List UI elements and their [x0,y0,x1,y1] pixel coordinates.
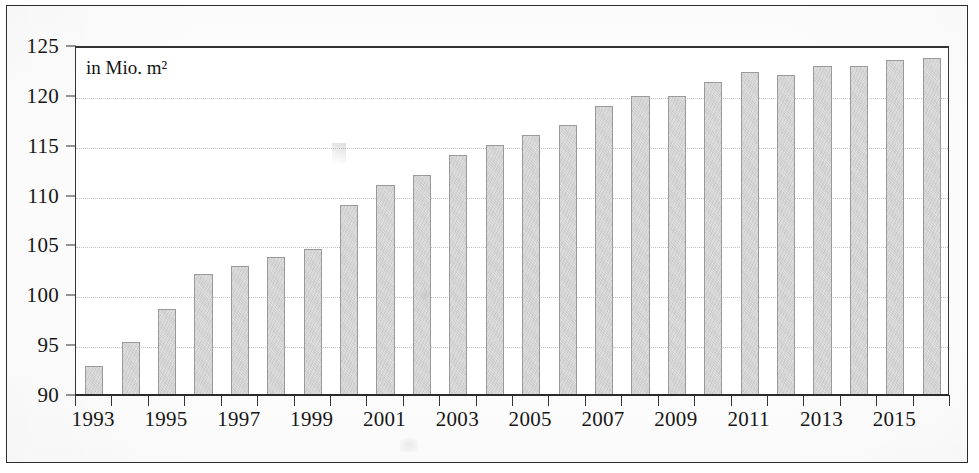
bar [850,66,868,394]
x-tick-mark [439,395,440,406]
x-tick-label: 2011 [727,409,769,430]
x-tick-label: 1993 [72,409,115,430]
bar [704,82,722,394]
bar [522,135,540,394]
bar [886,60,904,394]
bar [413,175,431,394]
x-tick-mark [803,395,804,406]
y-tick-label: 90 [37,385,59,406]
bar [631,96,649,394]
bar [158,309,176,394]
bar [486,145,504,394]
scan-smudge-icon [400,438,418,452]
x-tick-mark [221,395,222,406]
bar [122,342,140,394]
x-tick-mark [731,395,732,406]
x-tick-label: 1997 [217,409,260,430]
y-tick-label: 120 [27,85,59,106]
bar [668,96,686,394]
bar [449,155,467,394]
bar [231,266,249,394]
plot-frame [75,46,949,395]
x-tick-mark [366,395,367,406]
x-tick-mark [184,395,185,406]
x-tick-mark [876,395,877,406]
x-tick-mark [767,395,768,406]
x-tick-label: 2013 [800,409,843,430]
y-tick-label: 115 [27,135,59,156]
y-axis: 9095100105110115120125 [0,0,75,473]
x-tick-label: 2003 [436,409,479,430]
x-tick-mark [949,395,950,406]
bar [85,366,103,394]
bar-chart: 9095100105110115120125 in Mio. m² 199319… [0,0,979,473]
bar [595,106,613,394]
x-tick-mark [111,395,112,406]
bar [304,249,322,394]
x-tick-mark [476,395,477,406]
x-tick-mark [403,395,404,406]
x-tick-label: 2001 [363,409,406,430]
bar [340,205,358,394]
x-tick-mark [512,395,513,406]
x-tick-mark [75,395,76,406]
y-tick-label: 95 [37,335,59,356]
y-tick-label: 105 [27,235,59,256]
x-tick-label: 2009 [654,409,697,430]
x-tick-label: 2005 [509,409,552,430]
x-tick-label: 2015 [873,409,916,430]
x-tick-mark [621,395,622,406]
bar [741,72,759,394]
x-tick-mark [257,395,258,406]
bar [813,66,831,394]
x-tick-mark [148,395,149,406]
x-tick-mark [294,395,295,406]
x-tick-label: 2007 [581,409,624,430]
y-tick-label: 110 [27,185,59,206]
x-tick-mark [840,395,841,406]
unit-annotation: in Mio. m² [86,58,167,77]
bar [559,125,577,394]
bar [376,185,394,394]
x-tick-mark [913,395,914,406]
x-tick-label: 1995 [144,409,187,430]
x-tick-mark [694,395,695,406]
bar [923,58,941,394]
bar [267,257,285,394]
y-tick-label: 125 [27,36,59,57]
x-tick-mark [548,395,549,406]
bar [777,75,795,394]
x-tick-mark [658,395,659,406]
x-tick-mark [585,395,586,406]
x-tick-mark [330,395,331,406]
bar [194,274,212,394]
y-tick-label: 100 [27,285,59,306]
x-tick-label: 1999 [290,409,333,430]
plot-area [76,48,948,394]
